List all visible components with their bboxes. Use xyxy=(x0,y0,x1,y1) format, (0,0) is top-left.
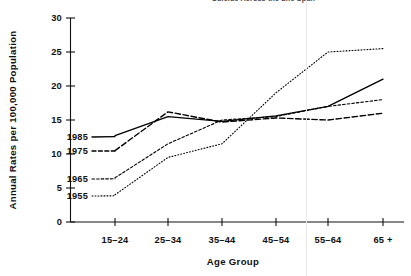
series-labels: 1985 1975 1965 1955 xyxy=(67,132,88,201)
line-chart: 0 5 10 15 20 25 30 Annual Rates per 100,… xyxy=(0,0,411,276)
x-axis-title: Age Group xyxy=(207,256,259,267)
y-tick-label: 10 xyxy=(51,149,62,159)
x-tick-label: 15–24 xyxy=(102,235,129,245)
y-axis-tick-labels: 0 5 10 15 20 25 30 xyxy=(51,13,62,227)
x-tick-label: 35–44 xyxy=(209,235,236,245)
series-group xyxy=(115,49,383,195)
series-line-1985 xyxy=(115,79,383,135)
y-tick-label: 30 xyxy=(51,13,62,23)
y-tick-label: 5 xyxy=(57,183,62,193)
x-axis-tick-labels: 15–24 25–34 35–44 45–54 55–64 65 + xyxy=(102,235,393,245)
x-tick-label: 25–34 xyxy=(155,235,182,245)
x-tick-label: 65 + xyxy=(373,235,393,245)
series-label-1965: 1965 xyxy=(67,174,88,184)
x-tick-label: 55–64 xyxy=(315,235,342,245)
x-tick-label: 45–54 xyxy=(263,235,290,245)
series-label-1985: 1985 xyxy=(67,132,88,142)
label-leader-lines xyxy=(92,137,115,196)
y-tick-label: 20 xyxy=(51,81,62,91)
series-label-1955: 1955 xyxy=(67,191,88,201)
y-tick-label: 25 xyxy=(51,47,62,57)
chart-container: Suicide Across the Life Span 0 5 10 15 2… xyxy=(0,0,411,276)
y-tick-label: 0 xyxy=(57,217,62,227)
series-line-1965 xyxy=(115,100,383,178)
y-axis-title: Annual Rates per 100,000 Population xyxy=(7,31,18,210)
series-line-1975 xyxy=(115,112,383,151)
y-tick-label: 15 xyxy=(51,115,62,125)
series-label-1975: 1975 xyxy=(67,146,88,156)
